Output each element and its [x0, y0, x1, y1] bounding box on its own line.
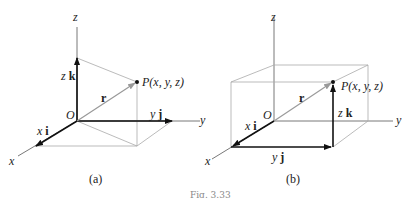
point-p-a — [135, 80, 139, 84]
caption-a: (a) — [89, 173, 102, 185]
xi-label-b: x i — [245, 120, 257, 132]
r-label-a: r — [101, 92, 106, 104]
y-axis-label-a: y — [200, 114, 205, 126]
y-axis-label-b: y — [396, 114, 401, 126]
z-axis-label-b: z — [271, 11, 276, 23]
z-axis-label-a: z — [73, 11, 78, 23]
caption-b: (b) — [286, 173, 300, 185]
diagram-canvas — [0, 0, 412, 198]
x-axis-label-a: x — [9, 155, 14, 167]
point-p-b — [331, 80, 335, 84]
point-label-b: P(x, y, z) — [341, 80, 383, 92]
yj-label-b: y j — [272, 151, 284, 163]
point-label-a: P(x, y, z) — [142, 76, 184, 88]
xi-label-a: x i — [37, 125, 49, 137]
origin-label-a: O — [66, 109, 75, 121]
r-label-b: r — [299, 92, 304, 104]
yj-label-a: y j — [150, 108, 162, 120]
x-axis-label-b: x — [205, 155, 210, 167]
figure-caption: Fig. 3.33 — [190, 190, 231, 198]
zk-label-b: z k — [338, 107, 352, 119]
origin-label-b: O — [263, 109, 272, 121]
zk-label-a: z k — [61, 70, 75, 82]
